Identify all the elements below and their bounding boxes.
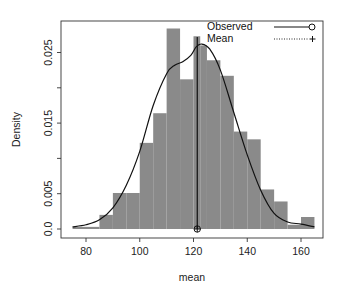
histogram-chart: 80100120140160 0.00.0050.0150.025 mean D… (0, 0, 343, 298)
y-tick-label: 0.015 (42, 110, 54, 136)
histogram-bars (73, 29, 315, 230)
y-axis-title: Density (10, 111, 22, 147)
x-tick-label: 140 (238, 245, 256, 257)
histogram-bar (126, 193, 139, 229)
x-tick-label: 120 (185, 245, 203, 257)
legend-label-observed: Observed (207, 20, 253, 32)
histogram-bar (200, 45, 207, 229)
histogram-bar (140, 143, 153, 229)
x-tick-label: 160 (292, 245, 310, 257)
histogram-bar (153, 113, 166, 229)
histogram-bar (180, 79, 193, 229)
legend: Observed Mean (207, 20, 316, 44)
histogram-bar (234, 132, 247, 229)
x-axis: 80100120140160 (80, 238, 310, 257)
histogram-bar (220, 76, 233, 229)
plus-marker-icon (310, 36, 316, 42)
histogram-bar (288, 225, 301, 229)
circle-marker-icon (309, 24, 315, 30)
y-tick-label: 0.005 (42, 180, 54, 206)
histogram-bar (167, 29, 180, 230)
histogram-bar (86, 227, 99, 229)
histogram-bar (99, 215, 112, 229)
y-tick-label: 0.0 (42, 222, 54, 237)
mean-marker-icon (194, 226, 200, 232)
x-tick-label: 80 (80, 245, 92, 257)
y-axis: 0.00.0050.0150.025 (42, 39, 61, 236)
x-tick-label: 100 (131, 245, 149, 257)
x-axis-title: mean (179, 271, 205, 283)
histogram-bar (301, 217, 314, 229)
legend-label-mean: Mean (207, 32, 233, 44)
histogram-bar (207, 60, 220, 229)
y-tick-label: 0.025 (42, 39, 54, 65)
